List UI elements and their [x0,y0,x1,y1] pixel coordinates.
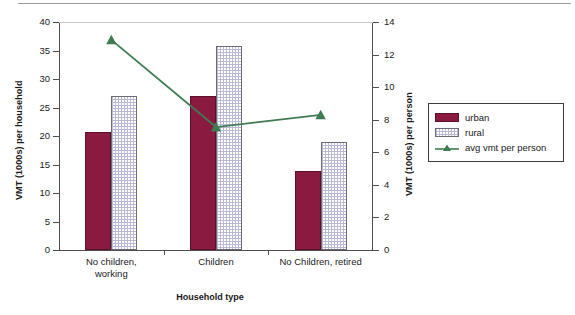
right-tick-label: 14 [384,17,406,27]
right-tick-label: 10 [384,82,406,92]
avg-vmt-line-series [59,22,373,250]
legend-swatch-rural-icon [435,128,459,137]
left-tick-label: 35 [28,46,50,56]
avg-vmt-polyline [111,40,320,127]
legend-label-avg-vmt: avg vmt per person [465,142,546,153]
top-divider-rule [18,3,571,4]
chart-figure: VMT (1000s) per household VMT (1000s) pe… [0,0,575,315]
right-tick-mark [373,87,379,88]
avg-vmt-marker-triangle-icon [106,35,116,45]
right-tick-mark [373,120,379,121]
legend-swatch-urban-icon [435,113,459,122]
x-axis-title: Household type [0,292,420,302]
plot-area [59,22,373,250]
right-tick-mark [373,185,379,186]
right-tick-mark [373,250,379,251]
right-tick-mark [373,55,379,56]
left-tick-label: 10 [28,188,50,198]
chart-legend: urban rural avg vmt per person [428,103,564,162]
legend-label-urban: urban [465,112,489,123]
left-tick-label: 25 [28,103,50,113]
right-tick-label: 12 [384,50,406,60]
right-tick-label: 4 [384,180,406,190]
left-tick-label: 5 [28,217,50,227]
legend-label-rural: rural [465,127,484,138]
left-tick-label: 30 [28,74,50,84]
left-tick-label: 0 [28,245,50,255]
legend-item-rural[interactable]: rural [435,125,557,140]
category-label: No Children, retired [256,256,385,268]
category-separator-tick [164,250,165,255]
right-tick-label: 6 [384,147,406,157]
legend-swatch-line-marker-icon [435,143,459,152]
left-tick-label: 15 [28,160,50,170]
right-tick-mark [373,22,379,23]
right-tick-label: 8 [384,115,406,125]
right-tick-label: 0 [384,245,406,255]
legend-item-avg-vmt[interactable]: avg vmt per person [435,140,557,155]
right-tick-label: 2 [384,212,406,222]
left-axis-title: VMT (1000s) per household [14,80,24,200]
right-tick-mark [373,217,379,218]
x-axis-line [59,250,373,251]
left-tick-mark [53,250,59,251]
left-tick-label: 40 [28,17,50,27]
legend-item-urban[interactable]: urban [435,110,557,125]
category-separator-tick [268,250,269,255]
left-tick-label: 20 [28,131,50,141]
right-tick-mark [373,152,379,153]
